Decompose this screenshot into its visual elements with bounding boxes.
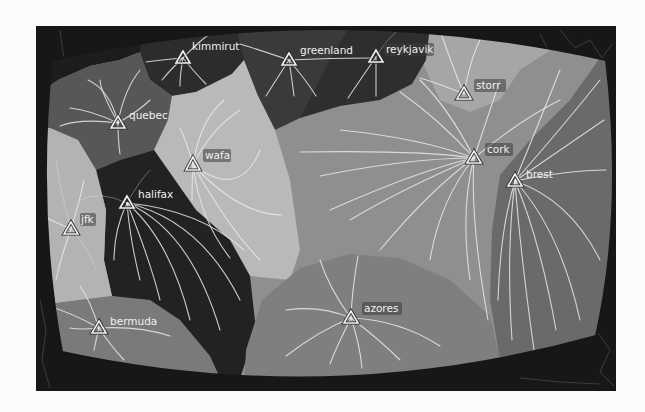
station-label: wafa: [205, 149, 230, 161]
station-label: azores: [364, 302, 398, 314]
station-label: cork: [487, 143, 511, 155]
station-label: jfk: [80, 213, 95, 225]
station-voronoi-map[interactable]: kimmirut greenland reykjavik storr: [36, 26, 616, 391]
station-label: quebec: [129, 109, 168, 121]
station-label: kimmirut: [192, 40, 239, 52]
station-label: halifax: [138, 188, 173, 200]
station-label: storr: [476, 79, 501, 91]
map-frame: kimmirut greenland reykjavik storr: [36, 26, 616, 391]
station-label: bermuda: [110, 315, 157, 327]
station-label: greenland: [300, 44, 353, 56]
station-label: reykjavik: [386, 43, 434, 55]
station-label: brest: [526, 168, 553, 180]
